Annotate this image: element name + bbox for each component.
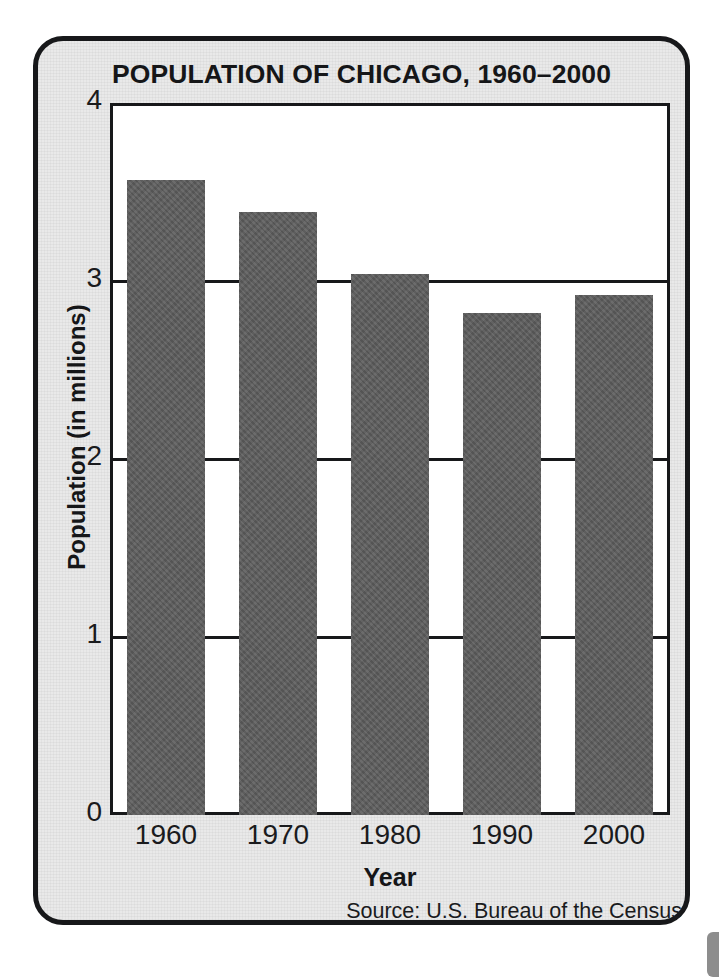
bar-1970[interactable] (239, 212, 318, 815)
y-tick-label-1: 1 (50, 618, 102, 650)
bar-2000[interactable] (575, 295, 654, 815)
bar-1960[interactable] (127, 180, 206, 815)
bar-1980[interactable] (351, 274, 430, 815)
x-axis-title: Year (110, 863, 670, 892)
bars-layer (110, 103, 670, 815)
y-tick-label-0: 0 (50, 796, 102, 828)
plot-area (110, 103, 670, 815)
y-tick-label-4: 4 (50, 84, 102, 116)
y-tick-label-3: 3 (50, 262, 102, 294)
bar-1990[interactable] (463, 313, 542, 815)
y-tick-label-2: 2 (50, 440, 102, 472)
x-tick-label-2000: 2000 (544, 819, 684, 851)
page-edge-mark (707, 932, 719, 977)
chart-title: POPULATION OF CHICAGO, 1960–2000 (38, 59, 685, 90)
chart-card: POPULATION OF CHICAGO, 1960–2000 Populat… (33, 36, 690, 925)
page-cropped-text (44, 955, 644, 977)
source-note: Source: U.S. Bureau of the Census (110, 899, 682, 924)
